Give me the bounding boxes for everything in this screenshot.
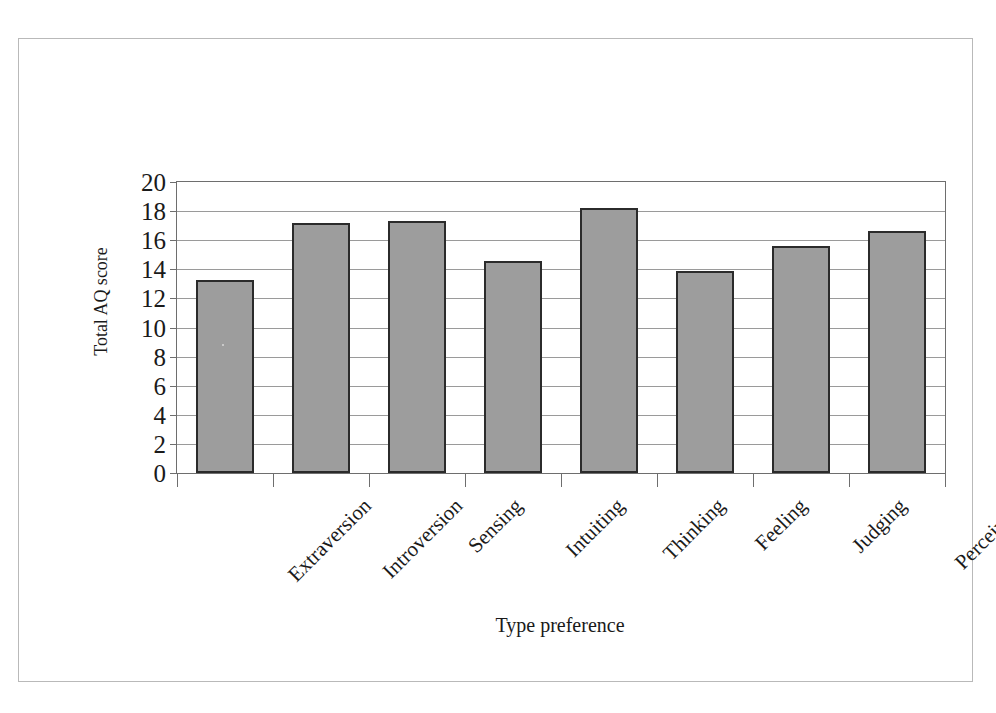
x-axis-category-label: Intuiting <box>562 495 628 561</box>
y-axis-tick <box>170 269 177 270</box>
x-axis-category-label: Judging <box>848 495 910 557</box>
gridline <box>177 211 945 212</box>
x-axis-tick <box>849 473 850 487</box>
x-axis-category-label: Thinking <box>660 495 729 564</box>
plot-area: 02468101214161820 ExtraversionIntroversi… <box>176 181 946 474</box>
bar <box>580 208 638 473</box>
y-axis-tick <box>170 182 177 183</box>
y-axis-tick-label: 16 <box>141 228 166 253</box>
x-axis-category-label: Feeling <box>751 495 810 554</box>
y-axis-tick-label: 12 <box>141 286 166 311</box>
y-axis-tick-label: 10 <box>141 315 166 340</box>
bar <box>772 246 830 473</box>
y-axis-tick-label: 8 <box>154 344 167 369</box>
x-axis-category-label: Extraversion <box>284 495 375 586</box>
x-axis-tick <box>465 473 466 487</box>
bar <box>676 271 734 473</box>
y-axis-tick-label: 0 <box>154 461 167 486</box>
y-axis-title: Total AQ score <box>91 217 112 387</box>
y-axis-tick-label: 6 <box>154 373 167 398</box>
y-axis-tick <box>170 240 177 241</box>
y-axis-tick <box>170 386 177 387</box>
x-axis-title: Type preference <box>176 614 944 637</box>
bar-chart: 02468101214161820 ExtraversionIntroversi… <box>19 39 974 683</box>
x-axis-category-label: Perceiving <box>951 495 996 573</box>
x-axis-tick <box>273 473 274 487</box>
y-axis-tick-label: 18 <box>141 199 166 224</box>
y-axis-tick-label: 20 <box>141 170 166 195</box>
bar <box>484 261 542 473</box>
y-axis-tick-label: 2 <box>154 431 167 456</box>
y-axis-tick <box>170 473 177 474</box>
x-axis-category-label: Introversion <box>379 495 466 582</box>
bar <box>292 223 350 473</box>
x-axis-tick <box>945 473 946 487</box>
y-axis-tick <box>170 298 177 299</box>
bar <box>388 221 446 473</box>
scan-speck <box>222 344 224 346</box>
x-axis-tick <box>657 473 658 487</box>
y-axis-tick <box>170 357 177 358</box>
bar <box>868 231 926 473</box>
y-axis-tick <box>170 328 177 329</box>
y-axis-tick-label: 14 <box>141 257 166 282</box>
x-axis-tick <box>561 473 562 487</box>
y-axis-tick <box>170 415 177 416</box>
x-axis-tick <box>369 473 370 487</box>
x-axis-tick <box>177 473 178 487</box>
x-axis-tick <box>753 473 754 487</box>
y-axis-tick-label: 4 <box>154 402 167 427</box>
y-axis-tick <box>170 444 177 445</box>
y-axis-tick <box>170 211 177 212</box>
x-axis-category-label: Sensing <box>464 495 526 557</box>
figure-frame: 02468101214161820 ExtraversionIntroversi… <box>18 38 973 682</box>
bar <box>196 280 254 474</box>
